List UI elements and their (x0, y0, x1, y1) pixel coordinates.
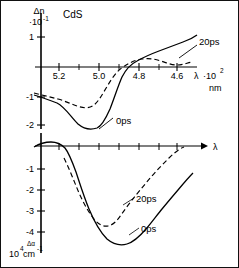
lower-panel: -1 -2 -3 -4 λ Δα 10 4 cm -1 20ps 0ps (9, 133, 218, 259)
upper-y-tick-label-neg2: -2 (26, 120, 34, 130)
upper-y-axis-scale: ·10 (29, 17, 42, 27)
upper-y-tick-label-neg1: -1 (26, 92, 34, 102)
lower-y-axis-symbol: Δα (27, 240, 35, 247)
upper-y-tick-label-1: 1 (29, 32, 34, 42)
plot-canvas: Δn ·10 -1 CdS 1 -1 -2 5.2 5.0 4.8 4.6 λ … (1, 1, 239, 268)
upper-leader-0ps (99, 118, 113, 129)
upper-x-tick-label-52: 5.2 (53, 71, 66, 81)
lower-curve-20ps (64, 147, 184, 226)
lower-y-tick-label-neg1: -1 (26, 164, 34, 174)
lower-y-axis-scale: 10 (9, 249, 19, 259)
upper-x-axis-scale: ·10 (203, 71, 216, 81)
lower-y-tick-label-neg4: -4 (26, 227, 34, 237)
upper-curve-label-0ps: 0ps (116, 115, 132, 126)
upper-panel: Δn ·10 -1 CdS 1 -1 -2 5.2 5.0 4.8 4.6 λ … (26, 6, 224, 130)
upper-x-axis-scale-exponent: 2 (220, 67, 224, 74)
figure-container: Δn ·10 -1 CdS 1 -1 -2 5.2 5.0 4.8 4.6 λ … (0, 0, 239, 268)
lower-y-tick-label-neg3: -3 (26, 206, 34, 216)
upper-x-tick-label-48: 4.8 (133, 71, 146, 81)
lower-y-axis-unit-exponent: -1 (37, 245, 43, 252)
upper-x-axis-unit: nm (209, 83, 222, 93)
upper-leader-20ps (179, 45, 197, 58)
material-title: CdS (63, 9, 83, 20)
lower-x-axis-arrow (201, 143, 208, 150)
upper-x-axis-symbol: λ (194, 71, 199, 81)
lower-y-tick-label-neg2: -2 (26, 185, 34, 195)
upper-curve-label-20ps: 20ps (199, 36, 220, 47)
upper-x-tick-label-46: 4.6 (171, 71, 184, 81)
lower-x-axis-symbol: λ (213, 142, 218, 152)
upper-x-tick-label-50: 5.0 (93, 71, 106, 81)
lower-leader-0ps (129, 228, 139, 235)
lower-curve-label-20ps: 20ps (136, 193, 157, 204)
upper-y-axis-scale-exponent: -1 (43, 15, 49, 22)
lower-y-axis-unit: cm (23, 249, 35, 259)
lower-curve-label-0ps: 0ps (141, 223, 157, 234)
